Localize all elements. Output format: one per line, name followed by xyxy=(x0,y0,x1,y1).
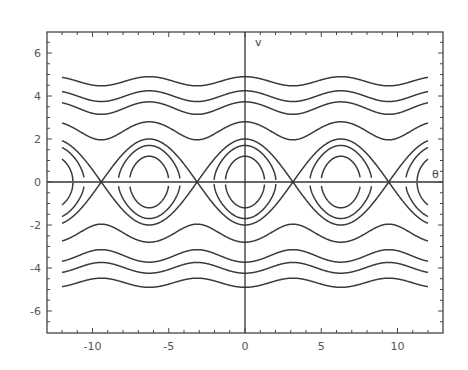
y-tick-label: 2 xyxy=(34,133,41,146)
y-tick-label: -2 xyxy=(30,219,41,232)
phase-portrait-chart: -10-505106420-2-4-6 v θ xyxy=(0,0,468,370)
x-tick-label: 0 xyxy=(242,340,249,353)
chart-background xyxy=(0,0,468,370)
y-tick-label: 4 xyxy=(34,90,41,103)
x-tick-label: 5 xyxy=(318,340,325,353)
x-tick-label: -10 xyxy=(84,340,102,353)
y-tick-label: 6 xyxy=(34,47,41,60)
x-tick-label: 10 xyxy=(391,340,405,353)
x-axis-label: θ xyxy=(432,168,439,181)
x-tick-label: -5 xyxy=(163,340,174,353)
y-tick-label: -4 xyxy=(30,262,41,275)
y-tick-label: 0 xyxy=(34,176,41,189)
y-axis-label: v xyxy=(255,36,262,49)
y-tick-label: -6 xyxy=(30,305,41,318)
